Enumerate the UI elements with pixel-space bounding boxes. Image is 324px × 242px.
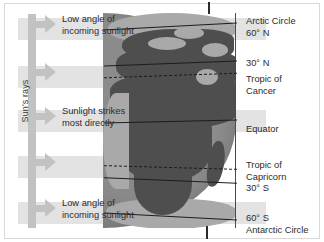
callout-middle-line2: most directly (62, 118, 125, 130)
label-tropic-of-cancer-line1: Tropic of (246, 74, 282, 86)
callout-top-line1: Low angle of (62, 14, 134, 26)
ray-arrow-head-2 (45, 63, 56, 81)
ray-arrow-head-3 (45, 107, 56, 125)
south-pole-axis (206, 226, 208, 239)
label-tropic-of-capricorn-line2: Capricorn (246, 172, 286, 184)
label-tropic-of-cancer: Tropic of Cancer (246, 74, 282, 97)
label-arctic-circle: Arctic Circle 60° N (246, 16, 296, 39)
ray-arrow-head-1 (45, 15, 56, 33)
label-equator: Equator (246, 124, 279, 136)
callout-bottom: Low angle of incoming sunlight (62, 198, 134, 221)
inland-sea-light-1 (148, 37, 186, 50)
callout-bottom-line1: Low angle of (62, 198, 134, 210)
label-30-north: 30° N (246, 58, 269, 70)
callout-top-line2: incoming sunlight (62, 26, 134, 38)
callout-top: Low angle of incoming sunlight (62, 14, 134, 37)
callout-middle: Sunlight strikes most directly (62, 106, 125, 129)
label-30-south: 30° S (246, 183, 269, 195)
label-antarctic-circle: 60° S Antarctic Circle (246, 213, 309, 236)
label-equator-line1: Equator (246, 124, 279, 136)
callout-bottom-line2: incoming sunlight (62, 210, 134, 222)
inland-sea-light-4 (196, 69, 218, 85)
label-tropic-of-cancer-line2: Cancer (246, 86, 282, 98)
label-antarctic-circle-line2: Antarctic Circle (246, 225, 309, 237)
label-30-south-line1: 30° S (246, 183, 269, 195)
inland-sea-light-3 (202, 43, 228, 57)
label-tropic-of-capricorn: Tropic of Capricorn (246, 160, 286, 183)
ray-arrow-head-5 (45, 199, 56, 217)
label-tropic-of-capricorn-line1: Tropic of (246, 160, 286, 172)
inland-sea-light-2 (174, 27, 204, 39)
label-30-north-line1: 30° N (246, 58, 269, 70)
diagram-canvas: Sun's rays Low angle of incoming sunligh… (0, 0, 324, 242)
label-arctic-circle-line1: Arctic Circle (246, 16, 296, 28)
callout-middle-line1: Sunlight strikes (62, 106, 125, 118)
label-arctic-circle-line2: 60° N (246, 28, 296, 40)
suns-rays-label: Sun's rays (20, 71, 30, 131)
ray-arrow-head-4 (45, 153, 56, 171)
label-antarctic-circle-line1: 60° S (246, 213, 309, 225)
north-pole-axis (208, 2, 210, 14)
land-africa-south (134, 153, 192, 215)
